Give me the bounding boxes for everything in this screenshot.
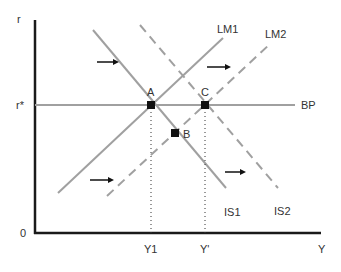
y-axis-label: r [17, 13, 21, 25]
lm2-label: LM2 [265, 28, 286, 40]
lm1-curve [58, 38, 223, 193]
is2-label: IS2 [274, 205, 291, 217]
point-b-label: B [183, 128, 190, 140]
point-c-marker [201, 101, 209, 109]
bp-label: BP [301, 99, 316, 111]
lm2-curve [107, 43, 271, 196]
point-c-label: C [201, 86, 209, 98]
point-b-marker [171, 129, 179, 137]
is1-label: IS1 [224, 206, 241, 218]
r-star-label: r* [16, 99, 25, 111]
x-axis-label: Y [318, 243, 326, 255]
point-a-marker [147, 101, 155, 109]
lm1-label: LM1 [217, 23, 238, 35]
yprime-tick-label: Y' [200, 243, 209, 255]
islm-bp-diagram: r r* 0 Y Y1 Y' A B C LM1 LM2 BP IS1 IS2 [0, 0, 341, 272]
point-a-label: A [147, 86, 155, 98]
origin-label: 0 [20, 227, 26, 239]
y1-tick-label: Y1 [144, 243, 157, 255]
